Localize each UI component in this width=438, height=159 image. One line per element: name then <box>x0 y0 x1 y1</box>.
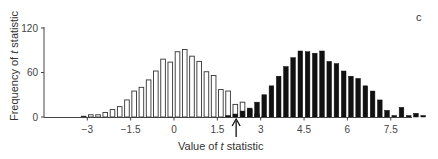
null-distribution-bars <box>81 50 266 118</box>
null-bar <box>168 62 173 117</box>
alt-bar <box>298 51 303 117</box>
alt-bar <box>305 52 310 117</box>
null-bar <box>125 100 130 117</box>
alt-bar <box>356 78 361 117</box>
alt-bar <box>370 91 375 117</box>
null-bar <box>190 56 195 117</box>
histogram-chart: 060120 −3−1.501.534.567.5 <box>0 0 438 159</box>
null-bar <box>161 59 166 117</box>
alt-bar <box>341 71 346 117</box>
null-bar <box>197 61 202 117</box>
x-tick-label: −1.5 <box>121 124 141 135</box>
alt-bar <box>363 86 368 117</box>
y-axis-label: Frequency of t statistic <box>8 6 20 126</box>
null-bar <box>139 87 144 117</box>
alt-bar <box>262 95 267 117</box>
null-bar <box>117 107 122 117</box>
alt-bar <box>334 64 339 117</box>
alt-bar <box>320 51 325 117</box>
null-bar <box>211 75 216 117</box>
alt-bar <box>392 116 397 117</box>
null-bar <box>154 71 159 117</box>
x-tick-label: 4.5 <box>297 124 311 135</box>
alt-bar <box>327 61 332 117</box>
alt-bar <box>233 114 238 117</box>
alt-bar <box>312 53 317 117</box>
x-tick-label: 0 <box>171 124 177 135</box>
alt-bar <box>378 100 383 117</box>
alt-bar <box>414 113 419 117</box>
threshold-arrow-icon <box>232 119 240 137</box>
alt-bar <box>284 67 289 117</box>
alternative-distribution-bars <box>226 51 426 117</box>
alt-bar <box>255 102 260 117</box>
alt-bar <box>269 86 274 117</box>
x-tick-label: 3 <box>258 124 264 135</box>
alt-bar <box>226 116 231 117</box>
alt-bar <box>421 116 426 117</box>
null-bar <box>219 90 224 117</box>
null-bar <box>146 80 151 117</box>
null-bar <box>226 91 231 117</box>
x-tick-label: 1.5 <box>210 124 224 135</box>
y-tick-label: 60 <box>27 67 39 78</box>
alt-bar <box>349 76 354 117</box>
null-bar <box>89 115 94 117</box>
panel-label: c <box>416 11 422 23</box>
null-bar <box>103 113 108 117</box>
null-bar <box>175 52 180 117</box>
null-bar <box>96 115 101 117</box>
x-tick-label: 7.5 <box>384 124 398 135</box>
alt-bar <box>399 107 404 117</box>
alt-bar <box>276 76 281 117</box>
null-bar <box>182 50 187 117</box>
null-bar <box>110 110 115 117</box>
null-bar <box>81 116 86 117</box>
y-tick-label: 0 <box>32 112 38 123</box>
alt-bar <box>406 116 411 117</box>
null-bar <box>132 91 137 117</box>
alt-bar <box>240 111 245 117</box>
x-tick-label: −3 <box>82 124 94 135</box>
alt-bar <box>385 110 390 117</box>
x-ticks: −3−1.501.534.567.5 <box>82 118 399 136</box>
y-tick-label: 120 <box>21 23 38 34</box>
alt-bar <box>247 108 252 117</box>
x-tick-label: 6 <box>345 124 351 135</box>
alt-bar <box>291 58 296 117</box>
x-axis-label: Value of t statistic <box>178 140 263 152</box>
null-bar <box>204 72 209 117</box>
y-ticks: 060120 <box>21 23 44 123</box>
